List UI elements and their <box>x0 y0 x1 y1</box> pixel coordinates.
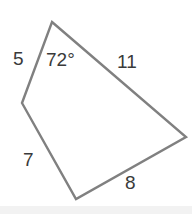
side-label-left-upper: 5 <box>13 49 24 68</box>
side-label-bottom-right: 8 <box>125 173 136 192</box>
side-label-left-lower: 7 <box>23 150 34 169</box>
bottom-edge-band <box>0 206 192 214</box>
geometry-figure: 5 72° 11 7 8 <box>0 0 192 214</box>
quadrilateral-diagram <box>0 0 192 214</box>
angle-label-top-vertex: 72° <box>46 50 75 69</box>
side-label-top-right: 11 <box>117 52 137 71</box>
